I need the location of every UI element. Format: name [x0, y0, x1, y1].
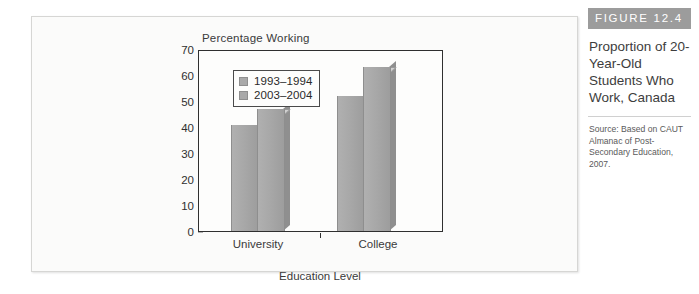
chart-legend: 1993–1994 2003–2004: [233, 70, 320, 107]
caption-divider: [588, 116, 691, 117]
figure-chart-panel: Percentage Working 0 10 20 30 40 50 60 7…: [31, 16, 578, 272]
legend-item: 1993–1994: [239, 74, 312, 88]
legend-swatch-icon: [239, 91, 248, 100]
legend-label: 2003–2004: [254, 89, 312, 101]
y-axis-title: Percentage Working: [202, 32, 310, 44]
bar-college-2003: [363, 67, 389, 231]
x-tick-label-university: University: [233, 238, 283, 250]
bar-university-2003: [257, 109, 283, 231]
y-tick-label: 30: [181, 148, 194, 160]
legend-item: 2003–2004: [239, 88, 312, 102]
bar-college-1993: [337, 96, 363, 231]
x-axis-title: Education Level: [279, 270, 361, 282]
figure-source-note: Source: Based on CAUT Almanac of Post-Se…: [588, 124, 691, 170]
figure-number-header: FIGURE 12.4: [588, 8, 691, 29]
plot-frame: 1993–1994 2003–2004: [198, 50, 443, 232]
figure-title: Proportion of 20-Year-Old Students Who W…: [588, 38, 691, 106]
y-tick-label: 0: [188, 226, 194, 238]
legend-swatch-icon: [239, 77, 248, 86]
bar-university-1993: [231, 125, 257, 231]
y-tick-label: 50: [181, 96, 194, 108]
y-tick-label: 60: [181, 70, 194, 82]
y-tick-label: 70: [181, 44, 194, 56]
legend-label: 1993–1994: [254, 75, 312, 87]
figure-caption-column: FIGURE 12.4 Proportion of 20-Year-Old St…: [588, 8, 691, 170]
y-tick-label: 20: [181, 174, 194, 186]
y-axis-tick-labels: 0 10 20 30 40 50 60 70: [150, 50, 194, 232]
bar-chart: Percentage Working 0 10 20 30 40 50 60 7…: [32, 17, 579, 273]
y-tick-label: 10: [181, 200, 194, 212]
y-tick-label: 40: [181, 122, 194, 134]
x-tick-label-college: College: [359, 238, 398, 250]
